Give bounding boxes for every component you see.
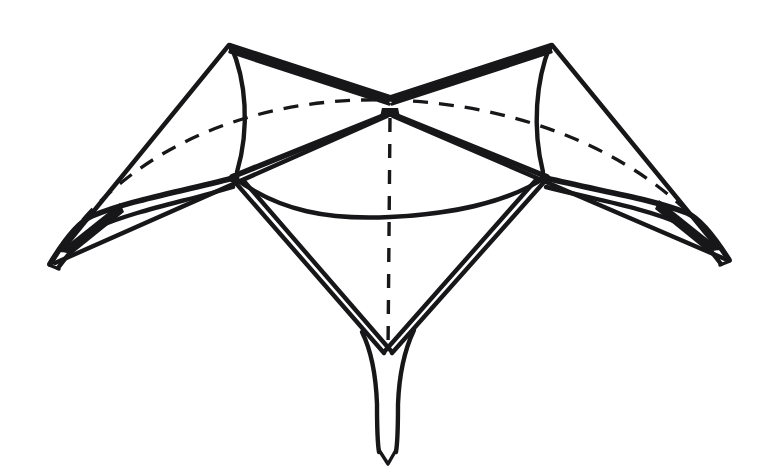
left-vertex-node [229, 174, 240, 183]
center-node-group [380, 108, 400, 117]
center-node-blot [380, 108, 400, 117]
right-vertex-node [540, 174, 551, 183]
geometric-figure [0, 0, 779, 476]
drawing-canvas: Hand-inked geometric diagram of a star-s… [0, 0, 779, 476]
